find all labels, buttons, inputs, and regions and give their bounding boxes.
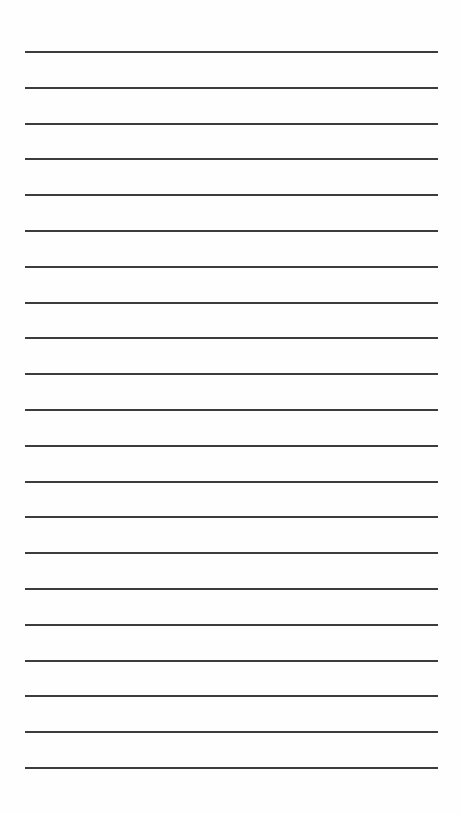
ruled-line [25,481,438,483]
ruled-line [25,767,438,769]
ruled-line [25,230,438,232]
ruled-line [25,194,438,196]
ruled-line [25,87,438,89]
ruled-line [25,552,438,554]
ruled-line [25,695,438,697]
ruled-line [25,409,438,411]
ruled-line [25,266,438,268]
lined-page [0,0,461,814]
ruled-line [25,445,438,447]
ruled-line [25,731,438,733]
ruled-line [25,660,438,662]
ruled-line [25,373,438,375]
ruled-line [25,624,438,626]
ruled-line [25,588,438,590]
ruled-line [25,123,438,125]
ruled-line [25,516,438,518]
ruled-line [25,51,438,53]
ruled-line [25,158,438,160]
ruled-line [25,302,438,304]
ruled-line [25,337,438,339]
